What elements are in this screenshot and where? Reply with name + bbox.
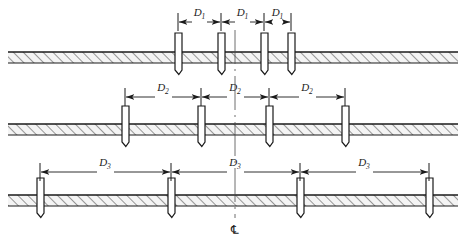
ground-hatch-band	[8, 52, 458, 63]
dimension-label: D1	[193, 6, 206, 21]
dimension-label: D1	[236, 6, 249, 21]
dimension-label: D3	[98, 156, 111, 171]
pile	[37, 178, 44, 218]
dimension-label: D2	[300, 81, 313, 96]
pile	[261, 33, 268, 75]
pile	[288, 33, 295, 75]
row-3-dimension-set: D3 D3 D3	[40, 156, 429, 181]
pile	[175, 33, 182, 75]
centerline-symbol-icon: ℄	[230, 223, 239, 237]
row-2-ground	[8, 124, 458, 135]
pile	[426, 178, 433, 218]
row-2-group: D2 D2 D2	[8, 81, 458, 147]
row-1-dimension-set: D1 D1 D1	[178, 6, 291, 31]
row-1-ground	[8, 52, 458, 63]
diagram-canvas: D1 D1 D1	[0, 0, 466, 245]
pile	[297, 178, 304, 218]
pile	[168, 178, 175, 218]
pile	[342, 106, 349, 147]
dimension-label: D3	[357, 156, 370, 171]
row-3-group: D3 D3 D3	[8, 156, 458, 218]
dimension-label: D1	[271, 6, 284, 21]
row-3-ground	[8, 195, 458, 206]
dimension-label: D2	[156, 81, 169, 96]
pile-spacing-diagram: D1 D1 D1	[0, 0, 466, 245]
ground-hatch-band	[8, 195, 458, 206]
row-1-group: D1 D1 D1	[8, 6, 458, 75]
ground-hatch-band	[8, 124, 458, 135]
pile	[266, 106, 273, 147]
pile	[122, 106, 129, 147]
pile	[198, 106, 205, 147]
pile	[218, 33, 225, 75]
